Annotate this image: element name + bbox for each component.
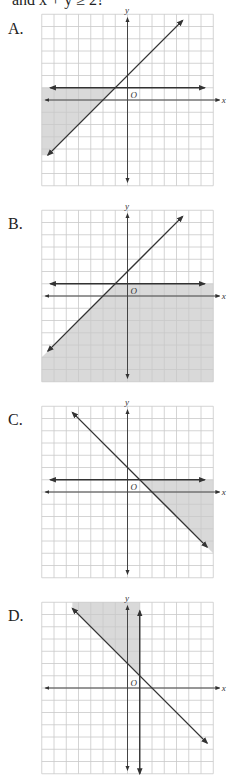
origin-label: O	[131, 678, 138, 688]
origin-label: O	[131, 286, 138, 296]
graph-choice-c[interactable]: xyO	[0, 396, 226, 596]
y-axis-label: y	[124, 397, 129, 407]
x-axis-label: x	[221, 487, 226, 497]
y-axis-label: y	[124, 593, 129, 603]
graph-choice-a[interactable]: xyO	[0, 5, 226, 205]
x-axis-label: x	[221, 683, 226, 693]
origin-label: O	[131, 90, 138, 100]
y-axis-label: y	[124, 201, 129, 211]
graph-choice-b[interactable]: xyO	[0, 200, 226, 400]
graph-choice-d[interactable]: xyO	[0, 592, 226, 779]
origin-label: O	[131, 482, 138, 492]
x-axis-label: x	[221, 291, 226, 301]
y-axis-label: y	[124, 5, 129, 15]
x-axis-label: x	[221, 95, 226, 105]
